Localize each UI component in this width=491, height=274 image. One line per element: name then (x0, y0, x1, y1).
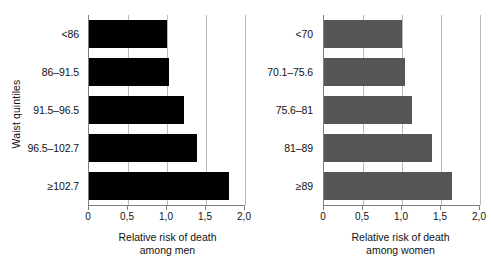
plot-area-women (323, 15, 480, 205)
bar-row (324, 15, 480, 53)
x-axis-title-women: Relative risk of death among women (293, 231, 491, 256)
bar (324, 134, 432, 163)
bars-women (324, 15, 480, 205)
x-axis-tick-label: 0 (85, 211, 91, 222)
x-axis-ticks-men (88, 205, 244, 210)
category-label: <70 (252, 15, 318, 53)
bar (89, 58, 169, 87)
x-axis-tick-label: 1,5 (433, 211, 447, 222)
x-axis-tick-label: 1,5 (198, 211, 212, 222)
x-axis-tick (401, 205, 402, 210)
category-label: ≥89 (252, 167, 318, 205)
bar-row (324, 91, 480, 129)
bar-row (324, 53, 480, 91)
bar-row (89, 53, 245, 91)
x-axis-tick-label: 2,0 (472, 211, 486, 222)
x-axis-tick-label: 0,5 (355, 211, 369, 222)
category-label: 91.5–96.5 (10, 91, 84, 129)
bar (89, 96, 184, 125)
x-axis-tick-labels-women: 00,51,01,52,0 (323, 211, 479, 225)
category-label: 75.6–81 (252, 91, 318, 129)
category-labels-women: <70 70.1–75.6 75.6–81 81–89 ≥89 (252, 15, 318, 205)
x-axis-title-line1: Relative risk of death (60, 231, 275, 244)
x-axis-tick (440, 205, 441, 210)
category-label: 81–89 (252, 129, 318, 167)
x-axis-tick (88, 205, 89, 210)
bar-row (324, 167, 480, 205)
category-label: 96.5–102.7 (10, 129, 84, 167)
bar-row (89, 129, 245, 167)
x-axis-tick-label: 0,5 (120, 211, 134, 222)
x-axis-tick (166, 205, 167, 210)
category-labels-men: <86 86–91.5 91.5–96.5 96.5–102.7 ≥102.7 (10, 15, 84, 205)
x-axis-tick-label: 0 (320, 211, 326, 222)
gridline (480, 15, 481, 205)
bar (89, 172, 229, 201)
bar (89, 134, 197, 163)
x-axis-title-men: Relative risk of death among men (60, 231, 275, 256)
panel-women: <70 70.1–75.6 75.6–81 81–89 ≥89 00,51,01… (245, 0, 480, 274)
x-axis-tick (127, 205, 128, 210)
x-axis-tick-label: 1,0 (394, 211, 408, 222)
plot-area-men (88, 15, 245, 205)
x-axis-title-line2: among women (293, 244, 491, 257)
x-axis-title-line2: among men (60, 244, 275, 257)
bar (324, 96, 412, 125)
bar-row (324, 129, 480, 167)
category-label: 86–91.5 (10, 53, 84, 91)
x-axis-tick (323, 205, 324, 210)
bar (89, 20, 167, 49)
bars-men (89, 15, 245, 205)
bar (324, 172, 452, 201)
panel-men: Waist quintiles <86 86–91.5 91.5–96.5 96… (0, 0, 245, 274)
bar-row (89, 15, 245, 53)
x-axis-tick (362, 205, 363, 210)
bar-row (89, 91, 245, 129)
bar (324, 58, 405, 87)
x-axis-ticks-women (323, 205, 479, 210)
x-axis-tick-label: 1,0 (159, 211, 173, 222)
x-axis-title-line1: Relative risk of death (293, 231, 491, 244)
category-label: 70.1–75.6 (252, 53, 318, 91)
bar (324, 20, 402, 49)
bar-row (89, 167, 245, 205)
category-label: ≥102.7 (10, 167, 84, 205)
x-axis-tick (479, 205, 480, 210)
x-axis-tick (205, 205, 206, 210)
category-label: <86 (10, 15, 84, 53)
x-axis-tick-labels-men: 00,51,01,52,0 (88, 211, 244, 225)
